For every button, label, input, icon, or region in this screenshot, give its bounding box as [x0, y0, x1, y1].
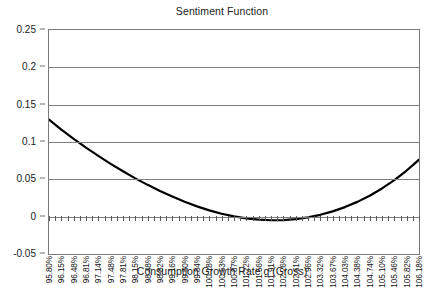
x-tick-mark — [80, 216, 81, 221]
x-tick-mark — [111, 216, 112, 221]
x-tick-mark — [357, 216, 358, 221]
y-tick-label: 0.2 — [22, 61, 36, 72]
y-tick-mark — [40, 253, 45, 254]
x-tick-mark — [49, 216, 50, 221]
x-tick-mark — [166, 216, 167, 221]
y-tick-label: 0.15 — [17, 98, 36, 109]
gridline — [49, 105, 419, 106]
y-tick-mark — [40, 29, 45, 30]
x-axis-tick-marks — [48, 216, 420, 222]
gridline — [49, 67, 419, 68]
y-tick-mark — [40, 215, 45, 216]
x-tick-mark — [271, 216, 272, 221]
x-tick-mark — [290, 216, 291, 221]
x-tick-mark — [351, 216, 352, 221]
x-tick-mark — [197, 216, 198, 221]
x-tick-mark — [117, 216, 118, 221]
x-tick-mark — [364, 216, 365, 221]
x-tick-mark — [345, 216, 346, 221]
x-tick-mark — [394, 216, 395, 221]
y-tick-label: 0.1 — [22, 136, 36, 147]
x-tick-mark — [135, 216, 136, 221]
x-tick-mark — [203, 216, 204, 221]
y-tick-label: 0.25 — [17, 24, 36, 35]
y-tick-label: -0.05 — [13, 248, 36, 259]
x-tick-mark — [185, 216, 186, 221]
x-tick-mark — [376, 216, 377, 221]
x-tick-mark — [129, 216, 130, 221]
x-tick-mark — [401, 216, 402, 221]
x-tick-mark — [92, 216, 93, 221]
x-axis-title: Consumption Growth Rate g (Gross) — [0, 265, 444, 277]
y-tick-label: 0.05 — [17, 173, 36, 184]
gridline — [49, 142, 419, 143]
x-tick-mark — [413, 216, 414, 221]
x-tick-mark — [86, 216, 87, 221]
y-tick-mark — [40, 66, 45, 67]
x-tick-mark — [68, 216, 69, 221]
y-tick-mark — [40, 103, 45, 104]
x-tick-mark — [234, 216, 235, 221]
x-tick-mark — [333, 216, 334, 221]
y-tick-mark — [40, 141, 45, 142]
x-tick-mark — [308, 216, 309, 221]
x-tick-mark — [160, 216, 161, 221]
x-tick-mark — [277, 216, 278, 221]
x-tick-mark — [55, 216, 56, 221]
x-tick-mark — [382, 216, 383, 221]
x-tick-mark — [339, 216, 340, 221]
x-tick-mark — [302, 216, 303, 221]
x-tick-mark — [228, 216, 229, 221]
x-tick-mark — [98, 216, 99, 221]
x-tick-mark — [320, 216, 321, 221]
x-tick-mark — [246, 216, 247, 221]
gridline — [49, 179, 419, 180]
y-axis: 0.250.20.150.10.050-0.05 — [0, 29, 44, 255]
x-tick-mark — [172, 216, 173, 221]
x-tick-mark — [253, 216, 254, 221]
y-tick-label: 0 — [30, 210, 36, 221]
x-tick-mark — [216, 216, 217, 221]
x-tick-mark — [179, 216, 180, 221]
chart-title: Sentiment Function — [0, 5, 444, 17]
x-tick-mark — [61, 216, 62, 221]
x-tick-mark — [74, 216, 75, 221]
x-tick-mark — [314, 216, 315, 221]
x-tick-mark — [209, 216, 210, 221]
x-tick-mark — [407, 216, 408, 221]
x-tick-mark — [259, 216, 260, 221]
x-tick-mark — [240, 216, 241, 221]
x-tick-mark — [148, 216, 149, 221]
x-tick-mark — [388, 216, 389, 221]
x-tick-mark — [142, 216, 143, 221]
x-tick-mark — [327, 216, 328, 221]
x-tick-mark — [265, 216, 266, 221]
x-tick-mark — [419, 216, 420, 221]
x-tick-mark — [296, 216, 297, 221]
y-tick-mark — [40, 178, 45, 179]
x-tick-mark — [105, 216, 106, 221]
x-tick-mark — [283, 216, 284, 221]
x-tick-mark — [154, 216, 155, 221]
x-tick-mark — [123, 216, 124, 221]
x-tick-mark — [222, 216, 223, 221]
x-tick-mark — [370, 216, 371, 221]
x-tick-mark — [191, 216, 192, 221]
